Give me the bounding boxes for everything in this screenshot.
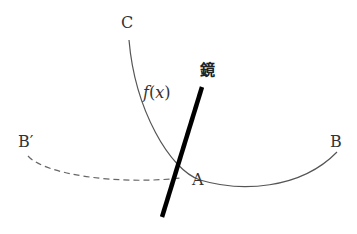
reflected-path-dashed (28, 156, 180, 180)
label-f-x: f(x) (142, 83, 170, 102)
label-a: A (191, 170, 204, 189)
label-mirror: 鏡 (200, 61, 215, 79)
label-c: C (121, 13, 133, 32)
label-b: B (330, 132, 342, 151)
label-b-prime: B′ (18, 132, 34, 151)
mirror-reflection-diagram: C f(x) 鏡 A B B′ (0, 0, 357, 234)
curve-f-x (129, 40, 337, 187)
